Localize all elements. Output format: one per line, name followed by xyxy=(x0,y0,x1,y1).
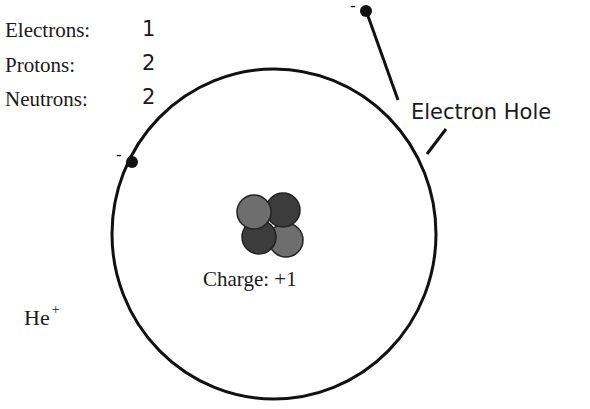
ejected-electron-sign: - xyxy=(350,0,356,15)
ion-element: He xyxy=(24,305,50,330)
electron-hole-label: Electron Hole xyxy=(411,100,551,124)
neutrons-value: 2 xyxy=(142,87,155,108)
nucleon-proton xyxy=(237,195,271,229)
electrons-label: Electrons: xyxy=(5,20,90,41)
neutrons-label: Neutrons: xyxy=(5,89,88,110)
protons-label: Protons: xyxy=(5,55,75,76)
nucleus xyxy=(237,193,303,257)
protons-value: 2 xyxy=(142,53,155,74)
bound-electron xyxy=(126,156,138,168)
electron-hole-pointer xyxy=(427,129,446,154)
ejected-electron-trail xyxy=(368,16,398,100)
ion-symbol: He+ xyxy=(24,305,60,331)
atom-drawing xyxy=(0,0,590,409)
nucleus-charge-label: Charge: +1 xyxy=(203,267,297,292)
ion-charge: + xyxy=(52,302,60,317)
bound-electron-sign: - xyxy=(116,145,122,164)
electrons-value: 1 xyxy=(142,19,155,40)
ejected-electron xyxy=(360,5,372,17)
